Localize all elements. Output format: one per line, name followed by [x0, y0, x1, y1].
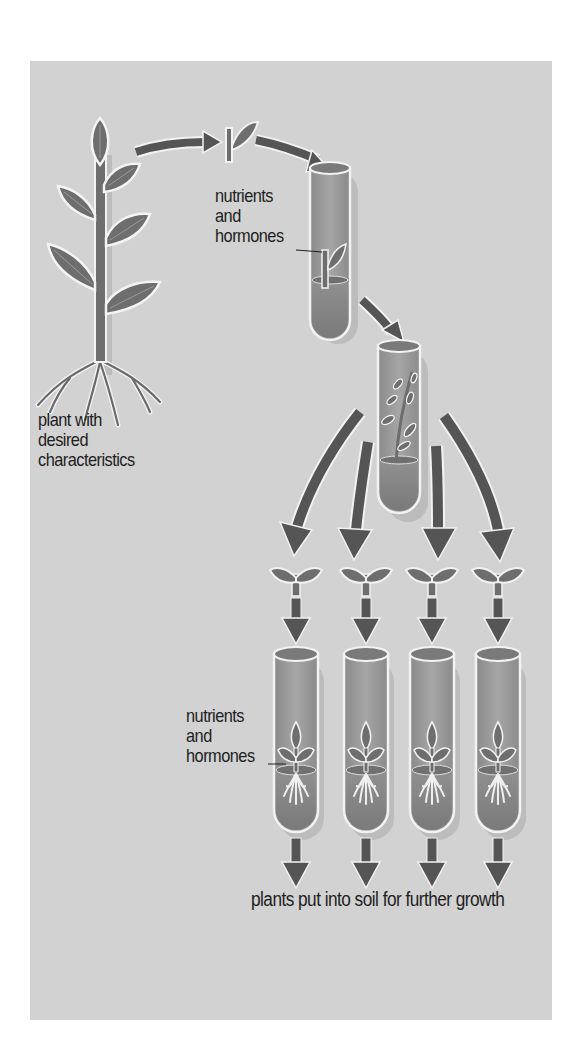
- label-line: hormones: [215, 226, 284, 246]
- culture-tube: [310, 162, 358, 344]
- arrows-to-soil: [282, 838, 512, 888]
- split-arrow-4: [444, 416, 514, 562]
- label-line: characteristics: [38, 450, 135, 470]
- split-arrow-2: [338, 442, 372, 560]
- plantlet: [406, 568, 458, 596]
- rooting-tubes: [274, 647, 526, 840]
- label-nutrients-bottom: nutrients and hormones: [186, 706, 255, 766]
- rooting-tube: [274, 647, 324, 840]
- label-nutrients-top: nutrients and hormones: [215, 186, 284, 246]
- label-line: nutrients: [215, 186, 284, 206]
- plantlet: [340, 568, 392, 596]
- label-line: nutrients: [186, 706, 255, 726]
- label-parent-plant: plant with desired characteristics: [38, 410, 135, 470]
- arrows-to-rooting-tubes: [282, 598, 512, 644]
- arrow-plant-to-cutting: [136, 131, 222, 153]
- label-line: and: [215, 206, 284, 226]
- label-line: plants put into soil for further growth: [251, 889, 504, 909]
- rooting-tube: [410, 647, 460, 840]
- arrow-down: [418, 598, 446, 644]
- arrow-down: [282, 598, 310, 644]
- arrow-down: [484, 598, 512, 644]
- plantlet: [472, 568, 524, 596]
- arrow-to-soil: [282, 838, 310, 888]
- cutting: [226, 122, 258, 162]
- label-line: desired: [38, 430, 135, 450]
- arrow-down: [352, 598, 380, 644]
- parent-plant: [38, 118, 160, 425]
- label-line: plant with: [38, 410, 135, 430]
- plantlet-tube: [378, 340, 428, 522]
- arrow-to-soil: [352, 838, 380, 888]
- rooting-tube: [344, 647, 394, 840]
- label-line: and: [186, 726, 255, 746]
- arrow-tube-to-tube: [362, 300, 404, 342]
- plantlet: [270, 568, 322, 596]
- arrow-to-soil: [484, 838, 512, 888]
- label-line: hormones: [186, 746, 255, 766]
- leaf: [58, 186, 95, 220]
- label-final-step: plants put into soil for further growth: [251, 889, 504, 909]
- arrow-to-soil: [418, 838, 446, 888]
- plantlets: [270, 568, 524, 596]
- rooting-tube: [476, 647, 526, 840]
